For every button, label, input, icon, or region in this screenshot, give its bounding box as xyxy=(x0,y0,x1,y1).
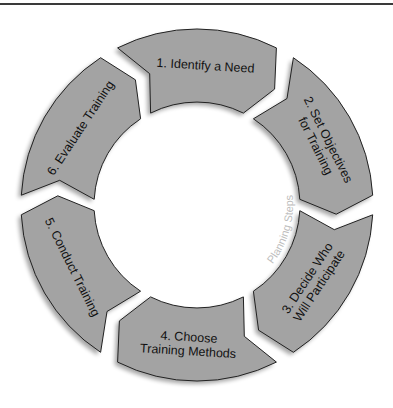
cycle-step-6: 6. Evaluate Training xyxy=(21,58,140,200)
training-cycle-diagram: 1. Identify a Need2. Set Objectivesfor T… xyxy=(0,0,393,408)
cycle-segments: 1. Identify a Need2. Set Objectivesfor T… xyxy=(21,29,372,381)
cycle-step-3: 3. Decide WhoWill Participate xyxy=(253,211,372,353)
